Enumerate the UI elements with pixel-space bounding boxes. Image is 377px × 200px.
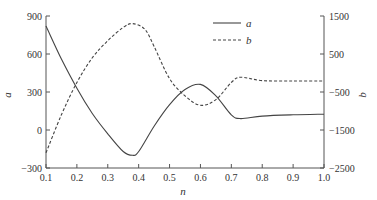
y-axis-right-label: b <box>356 92 368 98</box>
y-axis-left-label: a <box>1 92 13 98</box>
legend-b-label: b <box>246 34 252 46</box>
y-left-tick-label: 900 <box>27 11 42 22</box>
x-tick-label: 0.6 <box>194 172 207 183</box>
x-tick-label: 0.8 <box>256 172 269 183</box>
x-tick-label: 0.2 <box>71 172 84 183</box>
y-right-tick-label: 1500 <box>329 11 349 22</box>
x-tick-label: 0.9 <box>287 172 300 183</box>
x-tick-label: 0.7 <box>225 172 238 183</box>
legend: a b <box>213 17 252 46</box>
x-tick-label: 0.3 <box>102 172 115 183</box>
y-left-tick-label: 0 <box>37 125 42 136</box>
dual-axis-line-chart: 0.10.20.30.40.50.60.70.80.91.0−300030060… <box>0 0 377 200</box>
y-left-tick-label: 300 <box>27 87 42 98</box>
legend-a-label: a <box>246 17 252 29</box>
y-right-tick-label: −2500 <box>329 163 355 174</box>
y-right-tick-label: 500 <box>329 49 344 60</box>
curves <box>46 24 324 156</box>
series-a-line <box>46 26 324 155</box>
x-tick-label: 1.0 <box>318 172 331 183</box>
y-right-tick-label: −500 <box>329 87 350 98</box>
y-left-tick-label: −300 <box>21 163 42 174</box>
series-b-line <box>46 24 324 153</box>
x-axis-label: n <box>180 185 186 197</box>
x-tick-label: 0.4 <box>132 172 145 183</box>
y-left-tick-label: 600 <box>27 49 42 60</box>
x-tick-label: 0.1 <box>40 172 53 183</box>
axes: 0.10.20.30.40.50.60.70.80.91.0−300030060… <box>21 11 354 184</box>
x-tick-label: 0.5 <box>163 172 176 183</box>
y-right-tick-label: −1500 <box>329 125 355 136</box>
